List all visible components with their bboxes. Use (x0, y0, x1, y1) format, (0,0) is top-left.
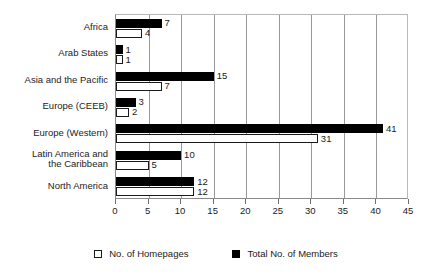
bar-homepages (116, 134, 318, 143)
bar-homepages (116, 82, 162, 91)
category-label: Europe (CEEB) (43, 101, 108, 112)
x-tick-label: 25 (272, 205, 283, 216)
bar-value-label: 2 (132, 107, 137, 116)
bar-homepages (116, 108, 129, 117)
x-tick (375, 199, 376, 204)
x-axis: 051015202530354045 (115, 199, 408, 225)
bar-value-label: 7 (165, 81, 170, 90)
bar-row: 1212 (116, 174, 407, 200)
legend-label: Total No. of Members (247, 248, 337, 259)
bar-value-label: 12 (197, 187, 208, 196)
bar-total-members (116, 124, 383, 133)
filled-square-icon (232, 250, 240, 258)
bar-value-label: 12 (197, 177, 208, 186)
bar-total-members (116, 151, 181, 160)
bar-chart: AfricaArab StatesAsia and the PacificEur… (0, 0, 432, 280)
legend-label: No. of Homepages (109, 248, 188, 259)
x-tick-label: 15 (207, 205, 218, 216)
bar-total-members (116, 45, 123, 54)
bar-row: 32 (116, 94, 407, 120)
bar-homepages (116, 29, 142, 38)
category-label: North America (48, 181, 108, 192)
bar-value-label: 41 (386, 124, 397, 133)
category-label: Latin America and the Caribbean (32, 149, 108, 170)
bar-total-members (116, 177, 194, 186)
x-tick-label: 30 (305, 205, 316, 216)
legend-item: Total No. of Members (232, 248, 337, 259)
chart-legend: No. of HomepagesTotal No. of Members (0, 248, 432, 259)
x-tick (310, 199, 311, 204)
legend-item: No. of Homepages (94, 248, 188, 259)
bar-value-label: 1 (126, 45, 131, 54)
bar-value-label: 10 (184, 150, 195, 159)
x-tick (115, 199, 116, 204)
bar-rows: 74111573241311051212 (116, 15, 407, 198)
x-tick-label: 0 (112, 205, 117, 216)
bar-homepages (116, 187, 194, 196)
x-tick-label: 35 (338, 205, 349, 216)
x-tick (278, 199, 279, 204)
plot-area: 74111573241311051212 (115, 14, 408, 199)
x-tick (408, 199, 409, 204)
bar-value-label: 15 (217, 71, 228, 80)
x-tick (213, 199, 214, 204)
x-tick (343, 199, 344, 204)
bar-row: 105 (116, 147, 407, 173)
category-label: Europe (Western) (33, 128, 108, 139)
bar-value-label: 3 (139, 97, 144, 106)
x-tick-label: 45 (403, 205, 414, 216)
x-tick-label: 20 (240, 205, 251, 216)
category-axis-labels: AfricaArab StatesAsia and the PacificEur… (0, 14, 112, 199)
bar-value-label: 7 (165, 18, 170, 27)
category-label: Asia and the Pacific (25, 75, 108, 86)
bar-value-label: 5 (152, 160, 157, 169)
bar-row: 157 (116, 68, 407, 94)
open-square-icon (94, 250, 102, 258)
bar-value-label: 4 (145, 28, 150, 37)
x-tick-label: 10 (175, 205, 186, 216)
bar-homepages (116, 161, 149, 170)
bar-row: 74 (116, 15, 407, 41)
x-tick-label: 40 (370, 205, 381, 216)
bar-value-label: 1 (126, 55, 131, 64)
bar-value-label: 31 (321, 134, 332, 143)
category-label: Arab States (58, 48, 108, 59)
x-tick-label: 5 (145, 205, 150, 216)
x-tick (245, 199, 246, 204)
x-tick (180, 199, 181, 204)
bar-homepages (116, 55, 123, 64)
bar-total-members (116, 19, 162, 28)
bar-row: 11 (116, 41, 407, 67)
x-tick (148, 199, 149, 204)
category-label: Africa (84, 22, 108, 33)
bar-row: 4131 (116, 121, 407, 147)
